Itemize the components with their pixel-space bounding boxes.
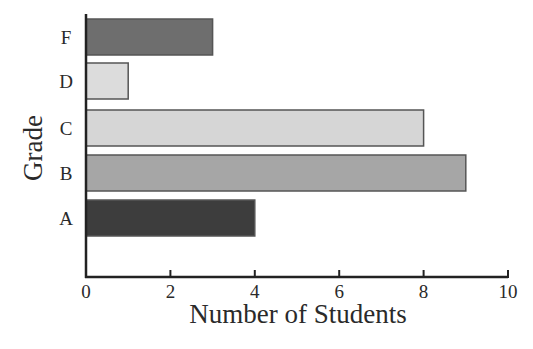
x-tick-label: 10 — [499, 281, 518, 302]
y-tick-label: C — [60, 118, 73, 139]
y-tick-label: F — [61, 27, 72, 48]
x-ticks: 0246810 — [81, 270, 517, 302]
bar-chart: ABCDF 0246810 Number of Students Grade — [0, 0, 533, 349]
bar-b — [86, 155, 466, 191]
y-axis-title: Grade — [18, 115, 48, 181]
x-axis-title: Number of Students — [189, 299, 406, 329]
y-tick-label: A — [59, 208, 73, 229]
bars-group — [86, 19, 466, 236]
bar-a — [86, 200, 255, 236]
bar-d — [86, 63, 128, 99]
bar-f — [86, 19, 213, 55]
x-tick-label: 2 — [166, 281, 176, 302]
bar-c — [86, 110, 424, 146]
x-tick-label: 8 — [419, 281, 429, 302]
y-tick-label: D — [59, 71, 73, 92]
x-tick-label: 0 — [81, 281, 91, 302]
y-tick-labels: ABCDF — [59, 27, 73, 229]
y-tick-label: B — [60, 163, 73, 184]
